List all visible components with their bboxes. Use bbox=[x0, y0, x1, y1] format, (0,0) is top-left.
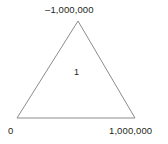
triangle-outline bbox=[0, 0, 168, 144]
vertex-label-bottom-right: 1,000,000 bbox=[109, 125, 152, 136]
triangle-diagram: –1,000,000 0 1,000,000 1 bbox=[0, 0, 168, 144]
region-label-interior: 1 bbox=[74, 67, 79, 78]
vertex-label-apex: –1,000,000 bbox=[45, 4, 94, 15]
vertex-label-bottom-left: 0 bbox=[8, 125, 13, 136]
